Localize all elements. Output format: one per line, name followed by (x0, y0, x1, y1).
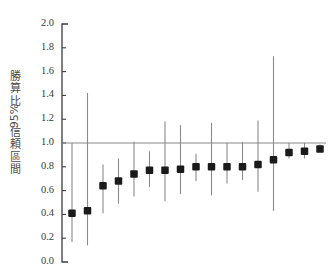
odds-ratio-marker (239, 163, 247, 171)
odds-ratio-marker (130, 170, 138, 178)
data-point-group (316, 144, 324, 153)
odds-ratio-marker (146, 167, 154, 175)
data-point-group (161, 122, 169, 202)
data-point-group (146, 151, 154, 187)
odds-ratio-marker (208, 163, 216, 171)
odds-ratio-marker (301, 148, 309, 156)
data-point-group (285, 143, 293, 158)
odds-ratio-marker (285, 149, 293, 157)
data-point-group (301, 143, 309, 158)
data-point-group (192, 154, 200, 181)
odds-ratio-marker (270, 156, 278, 164)
odds-ratio-marker (177, 165, 185, 173)
odds-ratio-marker (99, 182, 107, 190)
odds-ratio-marker (84, 207, 92, 215)
data-point-group (254, 120, 262, 191)
odds-ratio-marker (192, 163, 200, 171)
odds-ratio-marker (68, 209, 76, 217)
data-point-group (84, 93, 92, 245)
data-point-group (99, 164, 107, 213)
data-point-group (223, 143, 231, 183)
data-point-group (208, 123, 216, 196)
plot-area (0, 0, 334, 279)
odds-ratio-marker (223, 163, 231, 171)
data-point-group (270, 56, 278, 211)
odds-ratio-marker (115, 177, 123, 185)
data-point-group (130, 142, 138, 197)
data-point-group (115, 158, 123, 203)
odds-ratio-marker (316, 145, 324, 153)
odds-ratio-marker (161, 167, 169, 175)
odds-ratio-marker (254, 161, 262, 169)
data-point-group (177, 125, 185, 194)
forest-plot-chart: 勝算比95%信頼區間 0.00.20.40.60.81.01.21.41.61.… (0, 0, 334, 279)
data-point-group (239, 142, 247, 180)
data-point-group (68, 143, 76, 242)
